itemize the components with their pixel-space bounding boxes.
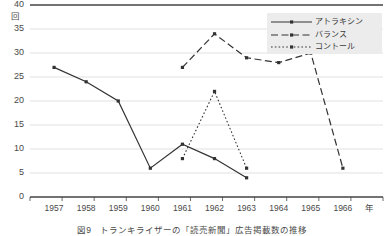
- data-point-1: [341, 167, 344, 170]
- x-tick-1960: 1960: [133, 204, 167, 213]
- data-point-0: [117, 99, 120, 102]
- figure-caption: 図9 トランキライザーの「読売新聞」広告掲載数の推移: [0, 224, 384, 236]
- data-point-1: [213, 32, 216, 35]
- y-tick-25: 25: [2, 72, 24, 81]
- y-tick-40: 40: [2, 0, 24, 9]
- y-tick-30: 30: [2, 48, 24, 57]
- x-tick-1963: 1963: [230, 204, 264, 213]
- legend-line-sample-dashed: [270, 29, 313, 41]
- y-tick-10: 10: [2, 144, 24, 153]
- x-tick-1959: 1959: [101, 204, 135, 213]
- legend-item-2: コントール: [267, 41, 382, 53]
- legend-label: バランス: [315, 29, 347, 41]
- figure-container: 回 0510152025303540 195719581959196019611…: [0, 0, 384, 236]
- data-point-0: [245, 176, 248, 179]
- x-tick-1961: 1961: [165, 204, 199, 213]
- legend-item-0: アトラキシン: [267, 16, 382, 28]
- y-tick-0: 0: [2, 192, 24, 201]
- data-point-0: [149, 167, 152, 170]
- data-point-0: [181, 143, 184, 146]
- legend-line-sample-dotted: [270, 41, 313, 53]
- y-tick-20: 20: [2, 96, 24, 105]
- legend-item-1: バランス: [267, 29, 382, 41]
- x-axis-unit-label: 年: [365, 204, 374, 213]
- y-tick-5: 5: [2, 168, 24, 177]
- legend-label: アトラキシン: [315, 16, 363, 28]
- data-point-1: [245, 56, 248, 59]
- legend-line-sample-solid: [270, 16, 313, 28]
- data-point-1: [181, 66, 184, 69]
- x-tick-1965: 1965: [294, 204, 328, 213]
- x-tick-1966: 1966: [326, 204, 360, 213]
- legend-label: コントール: [315, 41, 355, 53]
- data-point-0: [52, 66, 55, 69]
- x-tick-1957: 1957: [37, 204, 71, 213]
- x-tick-1964: 1964: [262, 204, 296, 213]
- data-point-1: [277, 61, 280, 64]
- data-point-2: [245, 167, 248, 170]
- y-tick-15: 15: [2, 120, 24, 129]
- data-point-2: [181, 157, 184, 160]
- data-point-0: [85, 80, 88, 83]
- y-tick-35: 35: [2, 24, 24, 33]
- data-point-2: [213, 90, 216, 93]
- y-axis-unit-label: 回: [11, 12, 20, 21]
- x-tick-1958: 1958: [69, 204, 103, 213]
- x-tick-1962: 1962: [198, 204, 232, 213]
- chart-legend: アトラキシンバランスコントール: [267, 13, 382, 54]
- data-point-0: [213, 157, 216, 160]
